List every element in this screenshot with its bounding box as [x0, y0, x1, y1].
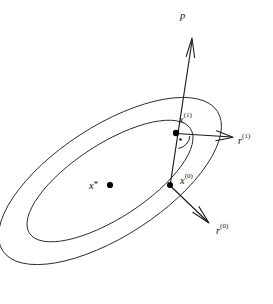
outer-level-set-contour [0, 65, 247, 297]
label-x-star-mark: * [94, 179, 98, 189]
label-x-star: x* [89, 181, 98, 192]
x-star-point-marker [107, 182, 113, 188]
label-r-0-superscript: (0) [220, 222, 228, 230]
residual-r0-line [171, 186, 209, 222]
label-r-1-superscript: (1) [242, 132, 250, 140]
label-x-star-base: x [89, 180, 94, 191]
diagram-svg [0, 0, 273, 304]
label-r-1: r(1) [238, 136, 250, 147]
label-x-1: x(1) [179, 115, 192, 126]
label-x-0: x(0) [180, 176, 193, 187]
x0-point-marker [167, 182, 173, 188]
label-x-0-superscript: (0) [185, 172, 193, 180]
label-p-text: p [180, 10, 185, 21]
label-x-1-base: x [179, 114, 184, 125]
orthogonality-arc [178, 136, 190, 149]
figure-canvas: p x* x(1) x(0) r(1) r(0) [0, 0, 273, 304]
orthogonality-center-dot [179, 138, 182, 141]
label-r-0: r(0) [216, 226, 228, 237]
label-x-0-base: x [180, 175, 185, 186]
label-p: p [180, 11, 185, 22]
x1-point-marker [173, 130, 179, 136]
label-x-1-superscript: (1) [184, 111, 192, 119]
